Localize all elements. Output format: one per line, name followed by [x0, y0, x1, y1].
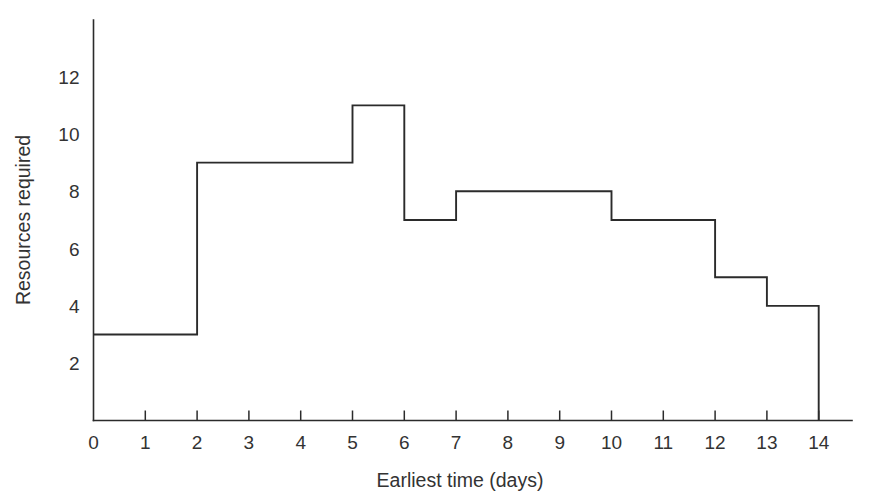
x-axis-tick-label: 9	[554, 432, 565, 453]
y-axis-tick-label: 4	[69, 296, 80, 317]
x-axis-tick-label: 14	[808, 432, 830, 453]
y-axis-tick-labels: 24681012	[58, 67, 80, 375]
x-axis-tick-marks	[145, 411, 818, 421]
y-axis-title: Resources required	[12, 135, 34, 305]
y-axis-tick-label: 6	[69, 239, 80, 260]
x-axis-tick-labels: 01234567891011121314	[88, 432, 829, 453]
resource-histogram-figure: 01234567891011121314 24681012 Earliest t…	[0, 0, 877, 500]
x-axis-tick-label: 12	[705, 432, 726, 453]
x-axis-tick-label: 2	[192, 432, 203, 453]
x-axis-tick-label: 0	[88, 432, 99, 453]
x-axis-tick-label: 13	[756, 432, 777, 453]
step-series-group	[94, 105, 819, 420]
x-axis-tick-label: 7	[451, 432, 462, 453]
x-axis-tick-label: 11	[653, 432, 673, 453]
x-axis-tick-label: 10	[601, 432, 622, 453]
axes-group	[94, 20, 853, 421]
x-axis-tick-label: 5	[347, 432, 358, 453]
step-series-line	[94, 105, 819, 420]
x-axis-tick-label: 4	[295, 432, 306, 453]
y-axis-tick-label: 2	[69, 353, 80, 374]
y-axis-tick-label: 8	[69, 181, 80, 202]
x-axis-title: Earliest time (days)	[377, 469, 544, 491]
y-axis-tick-label: 12	[58, 67, 79, 88]
x-axis-tick-label: 8	[503, 432, 514, 453]
x-axis-tick-label: 3	[244, 432, 255, 453]
x-axis-tick-label: 6	[399, 432, 410, 453]
y-axis-tick-label: 10	[58, 124, 79, 145]
chart-canvas: 01234567891011121314 24681012 Earliest t…	[0, 0, 877, 500]
x-axis-tick-label: 1	[140, 432, 151, 453]
